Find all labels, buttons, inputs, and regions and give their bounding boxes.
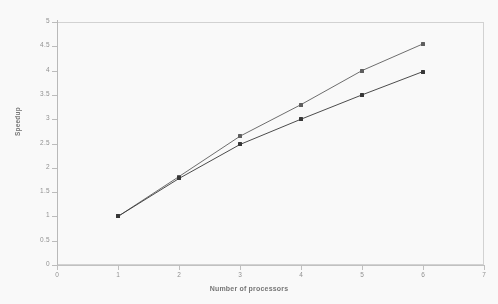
y-axis-tick-label-wrap: 3 [6, 115, 50, 123]
data-point-marker [177, 176, 181, 180]
y-axis-tick [52, 216, 57, 217]
x-axis-tick [362, 265, 363, 270]
chart-figure: 00.511.522.533.544.55 01234567 Speedup N… [0, 0, 498, 304]
x-axis-tick-label: 0 [45, 272, 69, 279]
data-point-marker [116, 214, 120, 218]
x-axis-title: Number of processors [0, 285, 498, 292]
x-axis-tick-label: 1 [106, 272, 130, 279]
y-axis-tick [52, 71, 57, 72]
y-axis-tick-label-wrap: 1.5 [6, 188, 50, 196]
y-axis-tick [52, 144, 57, 145]
data-point-marker [299, 117, 303, 121]
y-axis-tick-label-wrap: 4 [6, 67, 50, 75]
x-axis-tick-label: 5 [350, 272, 374, 279]
y-axis-title: Speedup [14, 107, 21, 136]
x-axis-spine [56, 265, 485, 266]
x-axis-tick [301, 265, 302, 270]
y-axis-tick [52, 95, 57, 96]
data-point-marker [299, 103, 303, 107]
data-point-marker [238, 134, 242, 138]
y-axis-tick-label: 1 [10, 212, 50, 219]
data-point-marker [360, 69, 364, 73]
x-axis-tick [179, 265, 180, 270]
y-axis-tick-label: 4 [10, 67, 50, 74]
y-axis-tick-label: 2 [10, 164, 50, 171]
data-point-marker [238, 142, 242, 146]
y-axis-tick-label: 3.5 [10, 91, 50, 98]
y-axis-tick-label-wrap: 0 [6, 261, 50, 269]
y-axis-tick [52, 192, 57, 193]
x-axis-tick-label: 7 [472, 272, 496, 279]
x-axis-tick-label: 2 [167, 272, 191, 279]
y-axis-tick-label-wrap: 2 [6, 164, 50, 172]
data-point-marker [421, 42, 425, 46]
x-axis-tick-label: 4 [289, 272, 313, 279]
y-axis-tick-label: 1.5 [10, 188, 50, 195]
y-axis-tick [52, 119, 57, 120]
x-axis-tick [423, 265, 424, 270]
data-point-marker [360, 93, 364, 97]
x-axis-tick-label: 6 [411, 272, 435, 279]
y-axis-tick-label: 0.5 [10, 237, 50, 244]
plot-area-frame [57, 22, 484, 265]
x-axis-tick [240, 265, 241, 270]
x-axis-tick-label: 3 [228, 272, 252, 279]
y-axis-tick-label-wrap: 2.5 [6, 140, 50, 148]
x-axis-tick [118, 265, 119, 270]
y-axis-tick-label-wrap: 1 [6, 212, 50, 220]
y-axis-tick [52, 22, 57, 23]
y-axis-tick [52, 168, 57, 169]
x-axis-tick [484, 265, 485, 270]
y-axis-tick [52, 46, 57, 47]
y-axis-tick-label: 0 [10, 261, 50, 268]
data-point-marker [421, 70, 425, 74]
y-axis-tick-label-wrap: 3.5 [6, 91, 50, 99]
y-axis-tick-label-wrap: 4.5 [6, 42, 50, 50]
y-axis-tick-label: 5 [10, 18, 50, 25]
y-axis-tick [52, 241, 57, 242]
x-axis-tick [57, 265, 58, 270]
y-axis-tick-label: 4.5 [10, 42, 50, 49]
y-axis-tick-label: 2.5 [10, 140, 50, 147]
y-axis-tick-label-wrap: 0.5 [6, 237, 50, 245]
y-axis-tick-label-wrap: 5 [6, 18, 50, 26]
y-axis-spine [57, 20, 58, 266]
